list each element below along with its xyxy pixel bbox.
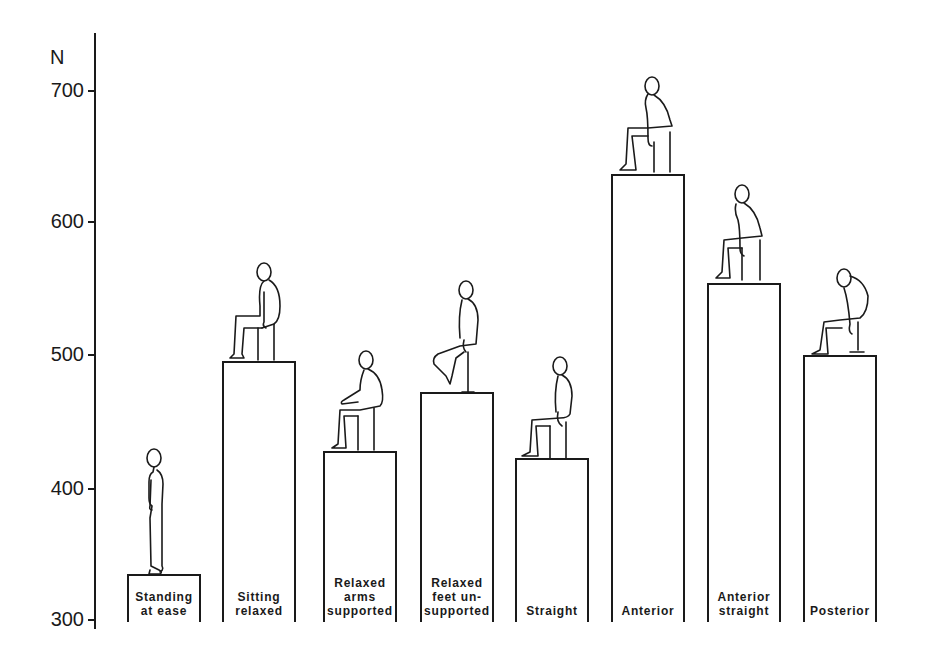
y-tick-600 [88,221,95,223]
bar-label: Posterior [805,604,875,618]
y-tick-500 [88,354,95,356]
y-tick-300 [88,619,95,621]
bar-sitting-relaxed: Sitting relaxed [222,361,296,622]
sitting-feet-unsupported-icon [428,280,488,394]
sitting-posterior-icon [810,266,874,358]
bar-label: Relaxed arms supported [325,576,395,618]
sitting-anterior-icon [618,76,678,176]
bar-label: Anterior straight [709,590,779,618]
y-tick-label-600: 600 [28,211,84,231]
bar-relaxed-arms-supported: Relaxed arms supported [323,451,397,622]
y-tick-label-400: 400 [28,478,84,498]
bar-anterior-straight: Anterior straight [707,283,781,622]
bar-label: Straight [517,604,587,618]
y-axis-unit-label: N [50,47,64,67]
y-tick-label-700: 700 [28,80,84,100]
y-tick-400 [88,488,95,490]
bar-chart: N 700 600 500 400 300 Standing at ease S… [0,0,925,661]
bar-label: Anterior [613,604,683,618]
sitting-anterior-straight-icon [714,184,774,284]
standing-person-icon [140,448,180,576]
bar-label: Standing at ease [129,590,199,618]
bar-anterior: Anterior [611,174,685,622]
y-tick-700 [88,90,95,92]
y-axis-line [94,33,96,629]
bar-straight: Straight [515,458,589,622]
bar-standing-at-ease: Standing at ease [127,574,201,622]
bar-relaxed-feet-unsupported: Relaxed feet un- supported [420,392,494,622]
bar-label: Relaxed feet un- supported [422,576,492,618]
bar-posterior: Posterior [803,355,877,622]
y-tick-label-500: 500 [28,344,84,364]
y-tick-label-300: 300 [28,609,84,629]
sitting-arms-supported-icon [330,350,390,452]
sitting-person-icon [228,262,290,362]
sitting-straight-icon [520,356,580,460]
bar-label: Sitting relaxed [224,590,294,618]
